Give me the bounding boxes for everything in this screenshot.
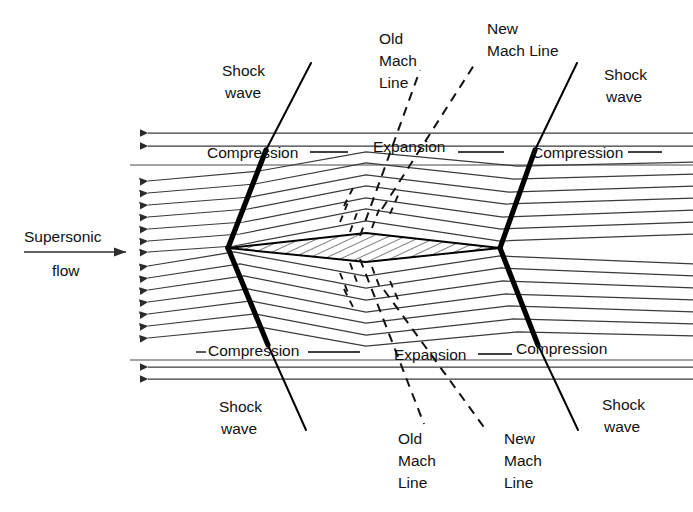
label-shock-bottom-right-line2: wave (603, 418, 640, 435)
label-new-mach-bottom-line2: Mach (504, 452, 542, 469)
label-compression-bottom-left: Compression (208, 342, 299, 359)
label-shock-top-right-line2: wave (605, 88, 642, 105)
label-new-mach-bottom-line1: New (504, 430, 536, 447)
label-new-mach-top-line1: New (487, 20, 519, 37)
expansion-fan-ticks-bottom (340, 263, 399, 309)
diamond-airfoil (220, 225, 510, 273)
shock-leading-lower (228, 248, 268, 345)
supersonic-airfoil-diagram: Supersonic flow Shock wave Shock wave Sh… (0, 0, 693, 512)
shock-trailing-upper-ext (535, 63, 577, 150)
shock-trailing-lower-ext (538, 345, 578, 430)
shock-trailing-lower (500, 248, 538, 345)
label-new-mach-top-line2: Mach Line (487, 42, 559, 59)
label-supersonic-flow-line2: flow (52, 262, 80, 279)
label-expansion-top: Expansion (373, 138, 445, 155)
label-new-mach-bottom-line3: Line (504, 474, 533, 491)
label-old-mach-top-line1: Old (379, 30, 403, 47)
label-shock-bottom-left-line1: Shock (219, 398, 262, 415)
label-shock-bottom-left-line2: wave (220, 420, 257, 437)
label-expansion-bottom: Expansion (394, 346, 466, 363)
label-shock-bottom-right-line1: Shock (602, 396, 645, 413)
label-old-mach-bottom-line3: Line (398, 474, 427, 491)
label-shock-top-right-line1: Shock (604, 66, 647, 83)
label-compression-top-left: Compression (207, 144, 298, 161)
label-old-mach-top-line2: Mach (379, 52, 417, 69)
label-compression-bottom-right: Compression (516, 340, 607, 357)
label-supersonic-flow-line1: Supersonic (24, 228, 102, 245)
label-old-mach-top-line3: Line (379, 74, 408, 91)
label-compression-top-right: Compression (532, 144, 623, 161)
label-shock-top-left-line1: Shock (222, 62, 265, 79)
label-old-mach-bottom-line2: Mach (398, 452, 436, 469)
streamlines-lower-deflected (148, 252, 693, 346)
label-old-mach-bottom-line1: Old (398, 430, 422, 447)
shock-leading-upper-ext (266, 63, 311, 150)
label-shock-top-left-line2: wave (224, 84, 261, 101)
